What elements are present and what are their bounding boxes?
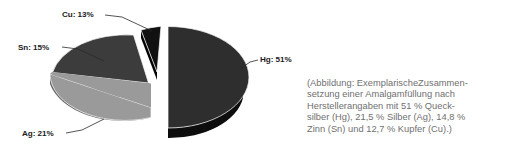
pie-chart-svg: Cu: 13% Sn: 15% Ag: 21% Hg: 51%	[0, 0, 300, 159]
figure-root: Cu: 13% Sn: 15% Ag: 21% Hg: 51% (Abbildu…	[0, 0, 522, 159]
pie-label-ag: Ag: 21%	[22, 129, 54, 138]
pie-chart: Cu: 13% Sn: 15% Ag: 21% Hg: 51%	[0, 0, 300, 159]
pie-label-sn: Sn: 15%	[18, 43, 49, 52]
pie-slice-hg-top	[168, 27, 249, 129]
pie-slice-cu-top	[141, 26, 161, 72]
pie-slice-hg[interactable]	[168, 27, 249, 139]
pie-label-cu: Cu: 13%	[62, 10, 94, 19]
leader-line-ag	[66, 119, 104, 133]
pie-label-hg: Hg: 51%	[260, 55, 292, 64]
figure-caption: (Abbildung: ExemplarischeZusammen- setzu…	[307, 78, 518, 135]
